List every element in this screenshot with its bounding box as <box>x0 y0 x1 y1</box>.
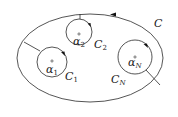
point-alpha-n-label: αN <box>128 56 142 70</box>
cut-line-c1 <box>24 42 40 51</box>
point-alpha-2-label: α2 <box>73 35 85 49</box>
contour-diagram: C α1 C1 α2 C2 αN CN <box>0 0 178 117</box>
point-alpha-1 <box>51 60 53 62</box>
cut-line-cn <box>146 70 160 85</box>
contour-c2-arrow-icon <box>88 23 92 27</box>
contour-cn-arrow-icon <box>144 44 149 49</box>
outer-contour-c <box>17 14 163 102</box>
contour-c1-arrow-icon <box>61 52 65 57</box>
contour-cn-label: CN <box>111 73 126 87</box>
contour-c2-label: C2 <box>94 38 107 52</box>
outer-contour-label: C <box>154 17 163 30</box>
contour-c1-label: C1 <box>65 70 78 84</box>
point-alpha-1-label: α1 <box>46 63 58 77</box>
